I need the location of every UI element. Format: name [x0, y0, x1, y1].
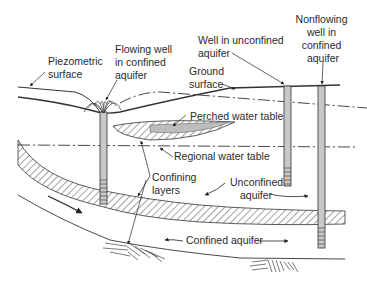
piezometric-surface-line	[18, 87, 100, 112]
leader-piezometric	[30, 72, 45, 86]
label-confining-layers: Confining layers	[152, 171, 199, 196]
leader-flowing-well	[106, 80, 117, 100]
label-flowing-well: Flowing well in confined aquifer	[115, 43, 175, 81]
diagram-container: Piezometric surface Flowing well in conf…	[0, 0, 367, 285]
piezometric-dashdot-line	[120, 92, 367, 108]
label-nonflowing-well: Nonflowing well in confined aquifer	[296, 13, 351, 64]
bedrock-hatch-right	[250, 260, 298, 272]
aquifer-diagram: Piezometric surface Flowing well in conf…	[0, 0, 367, 285]
fountain-spray-icon	[84, 101, 121, 113]
flowing-well-casing	[100, 112, 107, 204]
leader-nonflowing-well	[322, 62, 323, 84]
bedrock-hatch-left	[103, 243, 165, 262]
label-piezometric-surface: Piezometric surface	[48, 55, 106, 80]
leader-well-unconfined	[232, 53, 284, 84]
label-unconfined-aquifer: Unconfined aquifer	[230, 176, 286, 201]
unconfined-well-casing	[284, 86, 291, 186]
unconfined-arrow-right	[270, 194, 308, 197]
label-regional-water-table: Regional water table	[174, 150, 270, 162]
leader-regional	[160, 148, 173, 157]
label-well-unconfined: Well in unconfined aquifer	[198, 34, 287, 59]
label-perched-water-table: Perched water table	[190, 110, 284, 122]
nonflowing-well-casing	[318, 86, 325, 248]
label-ground-surface: Ground surface	[189, 65, 227, 90]
regional-water-table-line	[18, 145, 355, 147]
leader-confining-2	[141, 141, 150, 176]
label-confined-aquifer: Confined aquifer	[186, 234, 264, 246]
confined-arrow-left	[165, 240, 183, 241]
ground-surface-line	[18, 85, 340, 113]
unconfined-arrow-left	[205, 183, 225, 195]
